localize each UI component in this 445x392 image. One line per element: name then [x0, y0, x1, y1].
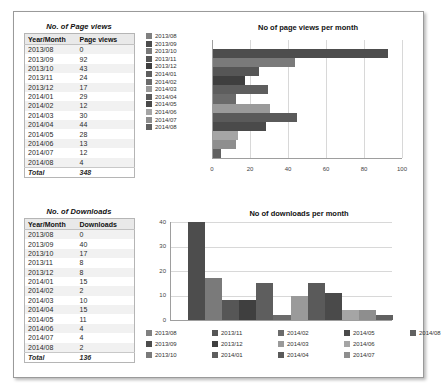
column-header-month: Year/Month — [25, 34, 77, 45]
downloads-chart-legend: 2013/082013/092013/102013/112013/122014/… — [146, 327, 445, 360]
cell-month: 2014/06 — [25, 139, 77, 148]
column-header-value: Page views — [77, 34, 135, 45]
bar — [213, 49, 388, 58]
legend-item: 2013/11 — [146, 56, 177, 62]
legend-swatch-icon — [212, 352, 218, 358]
cell-value: 2 — [77, 343, 135, 353]
legend-item: 2014/08 — [410, 330, 445, 336]
cell-value: 17 — [77, 249, 135, 258]
cell-month: 2014/06 — [25, 324, 77, 333]
legend-label: 2013/12 — [221, 341, 243, 347]
legend-swatch-icon — [146, 86, 152, 92]
legend-swatch-icon — [278, 352, 284, 358]
table-total-row: Total136 — [25, 352, 135, 362]
cell-value: 29 — [77, 92, 135, 101]
legend-swatch-icon — [146, 101, 152, 107]
cell-month: 2013/09 — [25, 54, 77, 63]
cell-month: 2014/02 — [25, 101, 77, 110]
legend-label: 2013/10 — [155, 352, 177, 358]
legend-swatch-icon — [146, 63, 152, 69]
cell-month: 2013/11 — [25, 73, 77, 82]
legend-label: 2013/11 — [221, 330, 242, 336]
page-views-table-block: No. of Page views Year/Month Page views … — [24, 22, 134, 178]
legend-item: 2013/09 — [146, 41, 177, 47]
legend-label: 2013/08 — [155, 33, 177, 39]
legend-label: 2013/08 — [155, 330, 177, 336]
cell-value: 17 — [77, 83, 135, 92]
cell-month: 2013/08 — [25, 45, 77, 55]
bar — [239, 300, 256, 320]
y-axis-tick-label: 40 — [152, 219, 166, 225]
cell-value: 4 — [77, 158, 135, 168]
bar — [205, 278, 222, 320]
cell-value: 0 — [77, 230, 135, 240]
table-header-row: Year/Month Page views — [25, 34, 135, 45]
page-views-table: Year/Month Page views 2013/0802013/09922… — [24, 33, 135, 178]
cell-month: 2014/04 — [25, 120, 77, 129]
cell-month: 2014/03 — [25, 296, 77, 305]
table-row: 2013/080 — [25, 45, 135, 55]
table-row: 2014/064 — [25, 324, 135, 333]
bar — [359, 310, 376, 320]
table-row: 2013/1124 — [25, 73, 135, 82]
legend-item: 2014/04 — [278, 352, 344, 358]
bar — [213, 149, 221, 158]
legend-swatch-icon — [278, 330, 284, 336]
cell-value: 8 — [77, 258, 135, 267]
legend-label: 2014/02 — [287, 330, 309, 336]
legend-label: 2014/01 — [221, 352, 243, 358]
table-row: 2013/0940 — [25, 239, 135, 248]
legend-item: 2014/08 — [146, 124, 177, 130]
legend-label: 2014/03 — [287, 341, 309, 347]
legend-item: 2014/05 — [146, 101, 177, 107]
bar — [213, 58, 295, 67]
bar — [273, 315, 290, 320]
legend-label: 2014/05 — [155, 101, 177, 107]
cell-month: 2014/01 — [25, 92, 77, 101]
table-row: 2014/0129 — [25, 92, 135, 101]
cell-month: 2013/08 — [25, 230, 77, 240]
legend-label: 2014/06 — [155, 109, 177, 115]
legend-swatch-icon — [212, 330, 218, 336]
legend-item: 2014/06 — [146, 109, 177, 115]
legend-item: 2013/12 — [212, 341, 278, 347]
downloads-table-title: No. of Downloads — [24, 207, 134, 218]
legend-swatch-icon — [146, 94, 152, 100]
legend-label: 2014/05 — [353, 330, 375, 336]
page-views-chart: No of page views per month 2013/082013/0… — [146, 21, 418, 189]
legend-label: 2014/01 — [155, 71, 177, 77]
cell-value: 44 — [77, 120, 135, 129]
legend-label: 2014/03 — [155, 86, 177, 92]
legend-label: 2013/09 — [155, 41, 177, 47]
legend-swatch-icon — [146, 71, 152, 77]
page-views-table-title: No. of Page views — [24, 22, 134, 33]
bar — [376, 315, 393, 320]
cell-value: 4 — [77, 324, 135, 333]
legend-label: 2014/08 — [419, 330, 441, 336]
legend-swatch-icon — [146, 109, 152, 115]
legend-item: 2014/03 — [146, 86, 177, 92]
legend-label: 2014/04 — [287, 352, 309, 358]
y-axis-tick-label: 20 — [152, 268, 166, 274]
table-row: 2014/0330 — [25, 111, 135, 120]
legend-item: 2013/09 — [146, 341, 212, 347]
y-axis-tick-label: 30 — [152, 243, 166, 249]
legend-item: 2013/08 — [146, 330, 212, 336]
table-row: 2014/0712 — [25, 148, 135, 157]
bar — [213, 104, 270, 113]
downloads-chart-title: No of downloads per month — [194, 209, 404, 218]
table-row: 2014/0310 — [25, 296, 135, 305]
table-row: 2013/080 — [25, 230, 135, 240]
legend-item: 2013/10 — [146, 48, 177, 54]
cell-month: 2014/07 — [25, 148, 77, 157]
legend-swatch-icon — [146, 48, 152, 54]
x-axis-tick-label: 40 — [280, 166, 296, 172]
x-axis-tick-label: 60 — [318, 166, 334, 172]
table-row: 2013/1043 — [25, 64, 135, 73]
legend-swatch-icon — [146, 124, 152, 130]
legend-swatch-icon — [146, 352, 152, 358]
legend-item: 2014/07 — [146, 117, 177, 123]
cell-value: 15 — [77, 277, 135, 286]
legend-swatch-icon — [146, 117, 152, 123]
